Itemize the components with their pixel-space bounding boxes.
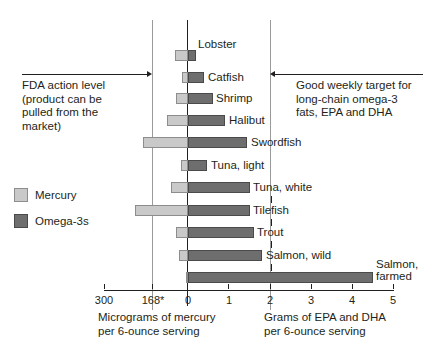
left-annotation-line3: pulled from the (22, 106, 150, 120)
legend-swatch-mercury (14, 188, 28, 202)
tick-label-0: 0 (185, 295, 191, 306)
tick-label-1: 1 (226, 295, 232, 306)
tick-mark-168 (152, 284, 153, 289)
bar-mercury-trout (176, 227, 188, 238)
left-annotation-text: FDA action level (product can be pulled … (22, 79, 150, 133)
x-axis-line (104, 290, 394, 291)
legend-item-mercury: Mercury (14, 188, 77, 202)
bar-omega3-halibut (188, 115, 225, 126)
left-annotation-arrow-icon (147, 71, 152, 77)
bar-label-trout: Trout (257, 226, 283, 238)
bar-omega3-tuna-light (188, 160, 207, 171)
bar-omega3-tuna-white (188, 182, 250, 193)
bar-label-salmon-farmed-line2: farmed (376, 270, 418, 282)
bar-mercury-halibut (167, 115, 188, 126)
bar-omega3-tilefish (188, 205, 250, 216)
right-annotation-arrow-icon (270, 71, 275, 77)
legend-swatch-omega3 (14, 214, 28, 228)
right-annotation-text: Good weekly target for long-chain omega-… (296, 79, 433, 120)
bar-label-shrimp-text: Shrimp (216, 92, 252, 104)
bar-omega3-trout (188, 227, 254, 238)
bar-label-lobster: Lobster (198, 38, 236, 50)
bar-label-catfish-text: Catfish (208, 71, 244, 83)
bar-mercury-salmon-wild (179, 250, 188, 261)
right-annotation-line3: fats, EPA and DHA (296, 106, 433, 120)
left-axis-caption: Micrograms of mercury per 6-ounce servin… (98, 311, 238, 338)
bar-label-salmon-wild-text: Salmon, wild (266, 249, 331, 261)
leader-dash-tilefish (271, 219, 272, 226)
bar-label-swordfish: Swordfish (251, 136, 302, 148)
bar-mercury-lobster (175, 50, 188, 61)
bar-label-tuna-white-text: Tuna, white (253, 181, 312, 193)
leader-dash-salmon-wild (271, 264, 272, 271)
tick-mark-5 (393, 284, 394, 289)
tick-label-3: 3 (308, 295, 314, 306)
tick-label-2: 2 (267, 295, 273, 306)
right-axis-caption-line1: Grams of EPA and DHA (264, 311, 419, 325)
left-axis-caption-line1: Micrograms of mercury (98, 311, 238, 325)
bar-label-tuna-light: Tuna, light (211, 159, 264, 171)
right-annotation-rule (275, 74, 423, 75)
left-axis-caption-line2: per 6-ounce serving (98, 325, 238, 339)
bar-label-salmon-farmed-line1: Salmon, (376, 258, 418, 270)
right-axis-caption-line2: per 6-ounce serving (264, 325, 419, 339)
bar-label-tilefish-text: Tilefish (253, 204, 289, 216)
bar-mercury-tilefish (135, 205, 188, 216)
tick-label-300: 300 (95, 295, 113, 306)
bar-omega3-shrimp (188, 93, 213, 104)
bar-omega3-lobster (188, 50, 196, 61)
tick-mark-300 (104, 284, 105, 289)
mercury-omega3-chart: FDA action level (product can be pulled … (0, 0, 433, 360)
legend-label-omega3: Omega-3s (35, 215, 89, 227)
bar-omega3-swordfish (188, 137, 247, 148)
bar-label-shrimp: Shrimp (216, 92, 252, 104)
bar-label-lobster-text: Lobster (198, 38, 236, 50)
tick-mark-4 (352, 284, 353, 289)
tick-mark-0 (187, 284, 188, 289)
bar-omega3-catfish (188, 72, 204, 83)
bar-omega3-salmon-farmed (188, 272, 373, 283)
left-annotation-rule (22, 74, 148, 75)
leader-dash-trout (271, 241, 272, 248)
leader-dash-tuna-white (271, 196, 272, 203)
left-annotation-line2: (product can be (22, 93, 150, 107)
bar-omega3-salmon-wild (188, 250, 262, 261)
bar-label-swordfish-text: Swordfish (251, 136, 302, 148)
left-annotation-line4: market) (22, 120, 150, 134)
bar-label-tuna-white: Tuna, white (253, 181, 312, 193)
bar-label-catfish: Catfish (208, 71, 244, 83)
tick-label-4: 4 (349, 295, 355, 306)
tick-mark-1 (228, 284, 229, 289)
bar-label-tilefish: Tilefish (253, 204, 289, 216)
tick-label-168: 168* (142, 295, 165, 306)
bar-mercury-tuna-light (181, 160, 188, 171)
bar-label-halibut: Halibut (229, 114, 265, 126)
right-axis-caption: Grams of EPA and DHA per 6-ounce serving (264, 311, 419, 338)
right-annotation-line2: long-chain omega-3 (296, 93, 433, 107)
bar-label-salmon-wild: Salmon, wild (266, 249, 331, 261)
bar-label-salmon-farmed: Salmon, farmed (376, 258, 418, 282)
right-annotation-line1: Good weekly target for (296, 79, 433, 93)
tick-mark-3 (311, 284, 312, 289)
legend-item-omega3: Omega-3s (14, 214, 89, 228)
tick-mark-2 (270, 284, 271, 289)
legend-label-mercury: Mercury (35, 189, 77, 201)
fda-action-level-line (152, 20, 153, 310)
bar-label-tuna-light-text: Tuna, light (211, 159, 264, 171)
bar-mercury-swordfish (143, 137, 188, 148)
bar-mercury-tuna-white (171, 182, 188, 193)
tick-label-5: 5 (390, 295, 396, 306)
left-annotation-line1: FDA action level (22, 79, 150, 93)
bar-mercury-shrimp (176, 93, 188, 104)
bar-label-halibut-text: Halibut (229, 114, 265, 126)
bar-label-trout-text: Trout (257, 226, 283, 238)
